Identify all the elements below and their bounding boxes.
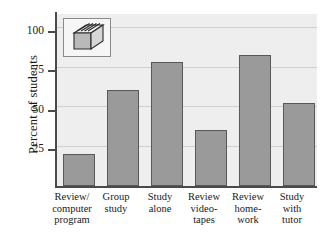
plot-area bbox=[57, 14, 317, 186]
y-tick-label-75: 75 bbox=[4, 63, 44, 75]
y-tick-label-25: 25 bbox=[4, 142, 44, 154]
y-tick-label-100: 100 bbox=[4, 24, 44, 36]
x-label-line: tutor bbox=[261, 214, 323, 226]
legend-icon-box bbox=[63, 18, 111, 57]
gridline-25 bbox=[57, 146, 317, 147]
bar-group-study bbox=[107, 90, 139, 186]
bar-review-computer-program bbox=[63, 154, 95, 186]
y-tick-100 bbox=[48, 31, 56, 33]
bar-review-videotapes bbox=[195, 130, 227, 186]
bar-chart: Percent of students bbox=[0, 0, 327, 243]
y-axis-line bbox=[55, 12, 57, 188]
bar-review-homework bbox=[239, 55, 271, 186]
y-tick-label-50: 50 bbox=[4, 103, 44, 115]
gridline-75 bbox=[57, 67, 317, 68]
bar-study-with-tutor bbox=[283, 103, 315, 186]
y-tick-75 bbox=[48, 70, 56, 72]
x-axis-line bbox=[55, 186, 317, 188]
x-label-line: program bbox=[41, 214, 103, 226]
y-tick-25 bbox=[48, 149, 56, 151]
x-label-study-with-tutor: Study with tutor bbox=[261, 191, 323, 226]
x-label-line: with bbox=[261, 203, 323, 215]
gridline-50 bbox=[57, 106, 317, 107]
bar-study-alone bbox=[151, 62, 183, 186]
book-stack-icon bbox=[71, 23, 105, 54]
y-tick-50 bbox=[48, 110, 56, 112]
x-label-line: Study bbox=[261, 191, 323, 203]
